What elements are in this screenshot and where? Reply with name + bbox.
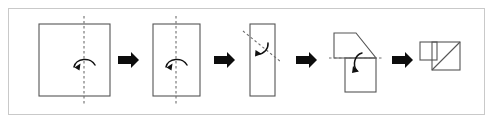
step-3-shape-rectangle xyxy=(250,24,275,96)
transition-arrow-3-icon xyxy=(296,52,317,68)
diagram-root: Paper folding sequence xyxy=(0,0,493,123)
step-5-diagonal-crease xyxy=(432,42,460,70)
step-5-shape-flap-square xyxy=(420,42,437,60)
step-1-shape-square xyxy=(39,24,110,96)
step-4-shape-lower-rectangle xyxy=(345,58,376,92)
transition-arrow-1-icon xyxy=(118,52,139,68)
paper-folding-diagram xyxy=(0,0,493,123)
step-1-square-with-vertical-fold xyxy=(39,16,110,104)
step-5-final-folded-result xyxy=(420,42,460,70)
step-4-fold-arrow-icon xyxy=(352,53,362,73)
step-4-folded-flap-with-horizontal-fold xyxy=(329,33,384,92)
transition-arrow-4-icon xyxy=(392,52,413,68)
step-3-fold-arrow-icon xyxy=(255,43,268,57)
step-4-shape-flap xyxy=(334,33,376,58)
step-2-tall-rectangle-with-vertical-fold xyxy=(153,16,200,104)
transition-arrow-2-icon xyxy=(214,52,235,68)
step-3-narrow-rectangle-with-diagonal-fold xyxy=(243,24,281,96)
